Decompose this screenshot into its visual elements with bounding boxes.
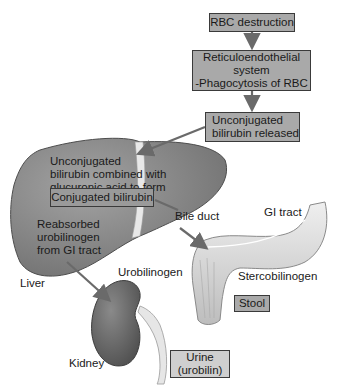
unconjugated-released-line1: Unconjugated (212, 114, 283, 127)
stercobilinogen-label: Stercobilinogen (238, 270, 317, 283)
bile-duct-label: Bile duct (175, 210, 219, 223)
urobilinogen-label: Urobilinogen (118, 266, 183, 279)
reticuloendothelial-line3: -Phagocytosis of RBC (195, 77, 308, 90)
rbc-destruction-box: RBC destruction (209, 13, 295, 32)
reticuloendothelial-line2: system (233, 64, 269, 77)
urine-line1: Urine (186, 351, 213, 364)
urine-box: Urine (urobilin) (170, 350, 230, 378)
stool-label: Stool (239, 297, 265, 310)
reticuloendothelial-box: Reticuloendothelial system -Phagocytosis… (192, 50, 311, 91)
urine-line2: (urobilin) (178, 364, 223, 377)
stool-box: Stool (234, 295, 270, 312)
kidney-label: Kidney (69, 357, 104, 370)
unconjugated-released-line2: bilirubin released (212, 127, 299, 140)
liver-label: Liver (20, 277, 45, 290)
unconjugated-released-box: Unconjugated bilirubin released (205, 112, 300, 142)
conjugated-bilirubin-label: Conjugated bilirubin (51, 191, 153, 204)
reticuloendothelial-line1: Reticuloendothelial (203, 51, 300, 64)
gi-tract-label: GI tract (264, 206, 302, 219)
reabsorbed-urobilinogen-text: Reabsorbed urobilinogen from GI tract (37, 218, 101, 257)
rbc-destruction-label: RBC destruction (210, 16, 294, 29)
conjugated-bilirubin-box: Conjugated bilirubin (50, 188, 154, 207)
